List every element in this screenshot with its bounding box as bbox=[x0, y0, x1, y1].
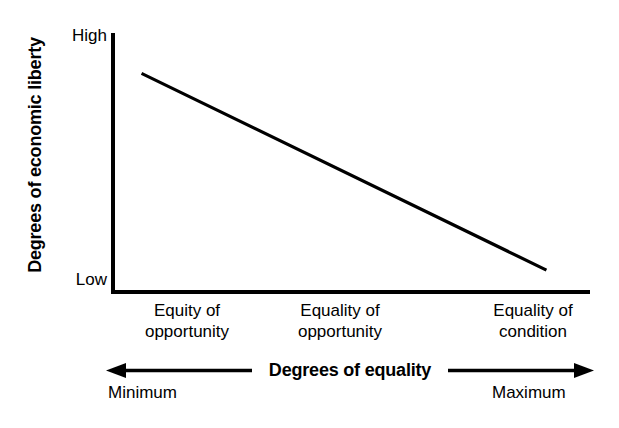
y-axis-tick-low: Low bbox=[0, 270, 107, 290]
x-axis-category-label-equity-of-opportunity: Equity of opportunity bbox=[104, 300, 270, 342]
y-axis-tick-high: High bbox=[0, 26, 107, 46]
x-axis-line bbox=[111, 290, 590, 294]
x-axis-minimum-label: Minimum bbox=[108, 383, 177, 403]
data-line-economic-liberty bbox=[143, 74, 545, 269]
y-axis-title: Degrees of economic liberty bbox=[22, 5, 48, 305]
x-axis-category-label-equality-of-opportunity: Equality of opportunity bbox=[250, 300, 430, 342]
x-axis-title: Degrees of equality bbox=[250, 358, 450, 382]
x-axis-maximum-label: Maximum bbox=[492, 383, 566, 403]
x-axis-category-label-equality-of-condition: Equality of condition bbox=[450, 300, 616, 342]
degrees-of-equality-axis: Degrees of equality bbox=[104, 358, 596, 384]
chart-figure: Degrees of economic liberty High Low Equ… bbox=[0, 0, 619, 428]
y-axis-line bbox=[111, 33, 115, 294]
